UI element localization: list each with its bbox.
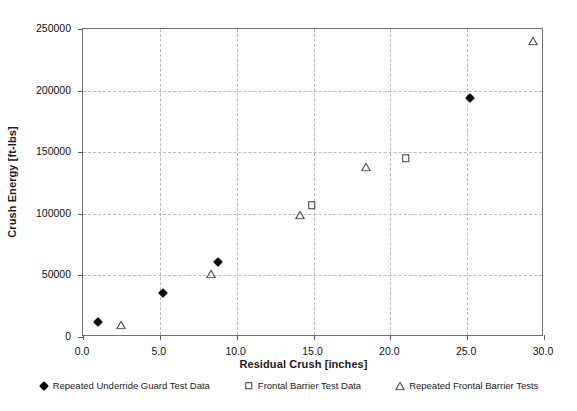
data-point-square [402, 155, 410, 163]
y-axis-title: Crush Energy [ft-lbs] [6, 126, 18, 238]
legend-item[interactable]: Repeated Underride Guard Test Data [39, 380, 210, 391]
x-tick-label: 0.0 [75, 345, 90, 357]
y-tick-label: 150000 [0, 145, 71, 157]
data-point-triangle [361, 162, 371, 171]
legend-label: Frontal Barrier Test Data [258, 380, 361, 391]
y-gridline [83, 152, 542, 153]
x-axis-title: Residual Crush [inches] [0, 358, 577, 370]
data-point-triangle [116, 320, 126, 329]
y-tick-mark [78, 29, 83, 30]
x-tick-label: 25.0 [456, 345, 476, 357]
x-tick-mark [390, 335, 391, 340]
x-tick-label: 20.0 [379, 345, 399, 357]
data-point-diamond [93, 317, 103, 327]
legend-label: Repeated Underride Guard Test Data [53, 380, 210, 391]
data-point-square [245, 382, 253, 390]
legend-marker-icon [395, 381, 405, 391]
y-tick-label: 250000 [0, 22, 71, 34]
data-point-triangle [295, 211, 305, 220]
data-point-diamond [213, 257, 223, 267]
data-point-diamond [39, 381, 49, 391]
legend-item[interactable]: Frontal Barrier Test Data [244, 380, 361, 391]
x-tick-mark [544, 335, 545, 340]
x-axis-title-text: Residual Crush [inches] [239, 358, 367, 370]
legend-marker-icon [244, 381, 254, 391]
y-tick-label: 0 [0, 330, 71, 342]
x-gridline [390, 29, 391, 335]
x-tick-mark [237, 335, 238, 340]
y-tick-label: 50000 [0, 268, 71, 280]
legend-marker-icon [39, 381, 49, 391]
x-tick-label: 5.0 [152, 345, 167, 357]
y-tick-mark [78, 214, 83, 215]
x-tick-mark [83, 335, 84, 340]
legend-label: Repeated Frontal Barrier Tests [409, 380, 538, 391]
x-gridline [467, 29, 468, 335]
y-tick-mark [78, 275, 83, 276]
x-tick-label: 30.0 [533, 345, 553, 357]
x-tick-label: 15.0 [302, 345, 322, 357]
y-tick-mark [78, 152, 83, 153]
x-gridline [237, 29, 238, 335]
chart-legend: Repeated Underride Guard Test DataFronta… [0, 380, 577, 391]
x-tick-mark [467, 335, 468, 340]
y-gridline [83, 275, 542, 276]
y-gridline [83, 214, 542, 215]
data-point-triangle [395, 381, 405, 390]
plot-area [82, 28, 543, 336]
data-point-square [308, 201, 316, 209]
data-point-triangle [528, 37, 538, 46]
y-gridline [83, 91, 542, 92]
legend-item[interactable]: Repeated Frontal Barrier Tests [395, 380, 538, 391]
x-tick-mark [314, 335, 315, 340]
y-tick-label: 200000 [0, 84, 71, 96]
x-gridline [314, 29, 315, 335]
x-tick-mark [160, 335, 161, 340]
data-point-triangle [206, 270, 216, 279]
y-tick-mark [78, 91, 83, 92]
x-tick-label: 10.0 [225, 345, 245, 357]
y-tick-label: 100000 [0, 207, 71, 219]
chart-container: Crush Energy [ft-lbs] Residual Crush [in… [0, 0, 577, 411]
